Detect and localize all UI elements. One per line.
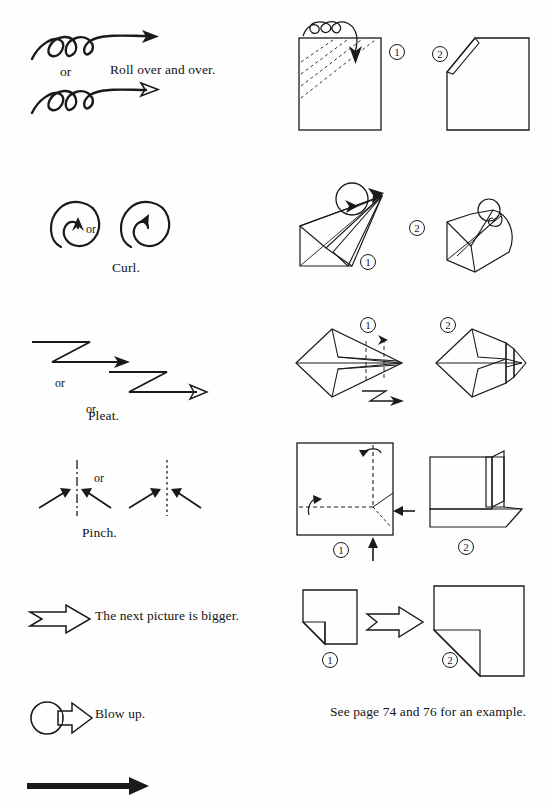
circle-hollow-arrow-icon — [28, 698, 94, 738]
diagram-roll-step1: 1 — [285, 10, 415, 145]
spiral-roll-arrow-icon-top — [28, 28, 168, 63]
step-number-2: 2 — [433, 47, 448, 62]
step-number-2: 2 — [459, 540, 474, 555]
spiral-roll-arrow-icon-bottom — [28, 82, 168, 117]
row-pinch-symbol-group: or Pinch. — [0, 450, 280, 560]
row-blow-up-symbol-group: Blow up. — [0, 695, 280, 745]
svg-text:1: 1 — [365, 319, 371, 331]
caption-curl: Curl. — [112, 260, 140, 276]
svg-text:1: 1 — [338, 544, 344, 556]
diagram-pinch-step2: 2 — [420, 435, 545, 565]
row-bigger-symbol-group: The next picture is bigger. — [0, 595, 280, 655]
step-number-1: 1 — [334, 543, 349, 558]
or-label-pleat: or — [55, 376, 65, 391]
svg-text:1: 1 — [327, 654, 333, 666]
row-curl-diagram-group: 1 2 — [290, 180, 545, 290]
row-roll-over-diagram-group: 1 2 — [285, 10, 545, 155]
curl-loop-arrow-icon-right — [115, 195, 175, 255]
svg-text:2: 2 — [447, 654, 453, 666]
caption-bigger: The next picture is bigger. — [95, 608, 239, 624]
row-pleat-symbol-group: or Pleat. — [0, 320, 280, 430]
caption-pinch: Pinch. — [82, 525, 117, 541]
row-bigger-diagram-group: 1 2 — [285, 580, 545, 680]
hollow-arrow-icon — [28, 603, 94, 635]
step-number-2: 2 — [443, 653, 458, 668]
caption-blow-up: Blow up. — [95, 706, 145, 722]
diagram-roll-step2: 2 — [435, 10, 545, 145]
diagram-curl-step1: 1 — [290, 180, 410, 280]
svg-text:1: 1 — [365, 256, 371, 268]
svg-text:2: 2 — [445, 319, 451, 331]
diagram-curl-step2: 2 — [405, 180, 535, 280]
zigzag-pleat-arrow-icon-bottom — [105, 364, 215, 406]
step-number-1: 1 — [361, 255, 376, 270]
pinch-arrows-dotted-icon — [115, 458, 225, 526]
diagram-pleat-step1: 1 — [290, 315, 420, 410]
svg-text:1: 1 — [394, 46, 400, 58]
origami-symbol-page: or Roll over and over. 1 — [0, 0, 547, 807]
example-page-note: See page 74 and 76 for an example. — [330, 704, 526, 720]
diagram-pinch-step1: 1 — [285, 435, 420, 565]
step-number-1: 1 — [361, 318, 376, 333]
row-pleat-diagram-group: 1 2 — [290, 315, 545, 415]
svg-text:2: 2 — [414, 222, 420, 234]
curl-loop-arrow-icon-left — [45, 195, 105, 255]
diagram-pleat-step2: 2 — [430, 315, 547, 410]
or-label-roll-over: or — [60, 64, 71, 80]
diagram-bigger-step1: 1 — [285, 580, 375, 675]
row-curl-symbol-group: or Curl. — [0, 180, 280, 290]
step-number-1: 1 — [323, 653, 338, 668]
svg-text:2: 2 — [463, 541, 469, 553]
step-number-2: 2 — [441, 318, 456, 333]
step-number-1: 1 — [390, 45, 405, 60]
step-number-2: 2 — [410, 221, 425, 236]
diagram-bigger-step2: 2 — [420, 580, 545, 680]
row-pinch-diagram-group: 1 2 — [285, 435, 545, 570]
or-label-pinch: or — [94, 471, 104, 486]
caption-roll-over: Roll over and over. — [110, 62, 215, 78]
caption-pleat: Pleat. — [88, 408, 119, 424]
svg-text:2: 2 — [437, 48, 443, 60]
or-label-curl-pos: or — [86, 222, 96, 237]
thick-solid-arrow-footer — [25, 775, 155, 797]
hollow-arrow-between-steps-icon — [365, 602, 427, 642]
row-roll-over-symbol-group: or Roll over and over. — [0, 0, 280, 160]
